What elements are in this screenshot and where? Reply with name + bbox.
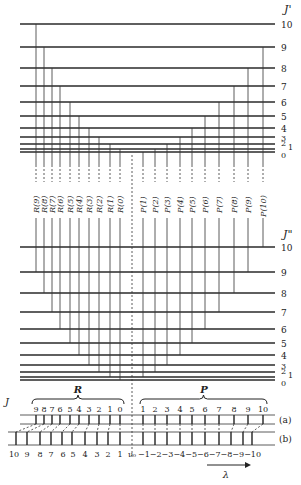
- lower-level-label: 10: [281, 243, 293, 253]
- spectrum-b-R-number: 6: [60, 450, 65, 459]
- upper-level-label: 3: [281, 134, 286, 143]
- transition-label: P(2): [151, 196, 160, 214]
- upper-level-label: 6: [281, 98, 287, 108]
- spectrum-b-R-number: 3: [94, 450, 99, 459]
- spectrum-b-R-number: 2: [105, 450, 110, 459]
- transition-label: R(2): [95, 196, 104, 214]
- spectrum-a-J-number: 5: [189, 405, 194, 414]
- transition-label: R(0): [116, 196, 125, 214]
- spectrum-a-J-number: 8: [41, 405, 46, 414]
- nu0-label: ν₀: [128, 450, 136, 459]
- spectrum-a-J-number: 6: [57, 405, 62, 414]
- spectrum-a-J-number: 7: [216, 405, 221, 414]
- spectrum-a-J-number: 7: [49, 405, 54, 414]
- spectrum-a-J-number: 3: [86, 405, 91, 414]
- spectrum-a-J-number: 4: [76, 405, 81, 414]
- transition-label: P(10): [259, 195, 268, 218]
- transition-labels: R(9)R(8)R(7)R(6)R(5)R(4)R(3)R(2)R(1)R(0)…: [32, 195, 268, 218]
- lower-state-label: J": [281, 228, 292, 241]
- R-branch-brace: [32, 395, 124, 404]
- lower-level-label: 1: [288, 371, 293, 380]
- spectrum-J-label: J: [3, 396, 10, 407]
- upper-level-label: 7: [281, 82, 287, 92]
- spectrum-connector: [85, 424, 89, 432]
- spectrum-a-J-number: 4: [177, 405, 182, 414]
- lower-level-label: 5: [281, 339, 287, 349]
- transition-label: R(3): [85, 196, 94, 214]
- lower-level-label: 3: [281, 362, 286, 371]
- spectrum-a-label: (a): [279, 415, 291, 425]
- lower-level-label: 8: [281, 289, 287, 299]
- spectrum-a-J-number: 5: [67, 405, 72, 414]
- spectrum-connector: [51, 424, 60, 432]
- lower-level-label: 7: [281, 308, 287, 318]
- lower-level-label: 9: [281, 268, 287, 278]
- spectrum-a-J-number: 10: [258, 405, 268, 414]
- spectrum-a-J-number: 0: [117, 405, 122, 414]
- upper-state-levels: 012345678910: [20, 20, 293, 160]
- spectrum-a-J-number: 9: [245, 405, 250, 414]
- spectrum-a-J-number: 2: [96, 405, 101, 414]
- spectrum-b-R-number: 10: [9, 450, 19, 459]
- spectrum-b-R-number: 5: [70, 450, 75, 459]
- spectrum-b-R-number: 9: [24, 450, 29, 459]
- spectrum-connector: [40, 424, 52, 432]
- spectrum-connector: [97, 424, 99, 432]
- spectrum-a-J-number: 2: [152, 405, 157, 414]
- transition-label: P(7): [215, 196, 224, 214]
- transition-label: R(6): [56, 196, 65, 214]
- spectrum-connector: [231, 424, 234, 432]
- spectrum-a-J-number: 3: [164, 405, 169, 414]
- spectrum-a-J-number: 1: [107, 405, 112, 414]
- spectrum-connector: [16, 424, 36, 432]
- upper-level-label: 4: [281, 124, 287, 134]
- transition-label: R(1): [106, 196, 115, 214]
- spectrum-b-R-number: 1: [117, 450, 122, 459]
- spectrum-a-J-number: 6: [202, 405, 207, 414]
- spectrum-a-J-number: 1: [140, 405, 145, 414]
- spectrum-a-J-number: 8: [231, 405, 236, 414]
- spectrum-connector: [108, 424, 110, 432]
- R-branch-label: R: [73, 384, 82, 395]
- transition-label: P(8): [230, 196, 239, 214]
- transition-label: R(4): [75, 196, 84, 214]
- transition-label: P(3): [163, 196, 172, 214]
- spectrum-connector: [243, 424, 248, 432]
- spectrum-connector: [252, 424, 263, 432]
- rotational-energy-level-diagram: 012345678910 012345678910 R(9)R(8)R(7)R(…: [0, 0, 301, 485]
- spectrum-b-P-numbers: −1−2−3−4−5−6−7−8−9−10: [138, 450, 261, 459]
- P-branch-label: P: [199, 384, 208, 395]
- lambda-arrow-icon: [245, 462, 251, 468]
- spectrum-connector: [62, 424, 70, 432]
- spectrum-b-label: (b): [279, 434, 292, 444]
- transition-label: R(5): [66, 196, 75, 214]
- transition-label: P(4): [176, 196, 185, 214]
- lambda-label: λ: [222, 469, 229, 480]
- transition-label: P(9): [244, 196, 253, 214]
- lower-level-label: 4: [281, 351, 287, 361]
- upper-level-label: 10: [281, 20, 293, 30]
- upper-level-label: 9: [281, 43, 287, 53]
- upper-level-label: 5: [281, 112, 287, 122]
- spectrum-b-R-number: 8: [37, 450, 42, 459]
- spectrum-b-R-number: 7: [48, 450, 53, 459]
- P-branch-brace: [140, 395, 267, 404]
- transition-label: P(6): [201, 196, 210, 214]
- upper-level-label: 8: [281, 64, 287, 74]
- transition-label: P(5): [188, 196, 197, 214]
- spectrum-panel: JRP987654321012345678910(a)(b)1098765432…: [3, 384, 292, 480]
- lower-level-label: 6: [281, 325, 287, 335]
- spectrum-b-R-number: 4: [82, 450, 87, 459]
- spectrum-a-J-number: 9: [33, 405, 38, 414]
- transition-label: P(1): [139, 196, 148, 214]
- transition-lines: [36, 24, 263, 458]
- lower-state-levels: 012345678910: [20, 243, 293, 388]
- upper-level-label: 1: [288, 143, 293, 152]
- spectrum-connector: [72, 424, 79, 432]
- upper-state-label: J': [282, 3, 291, 16]
- lower-level-label: 0: [281, 379, 286, 388]
- upper-level-label: 0: [281, 151, 286, 160]
